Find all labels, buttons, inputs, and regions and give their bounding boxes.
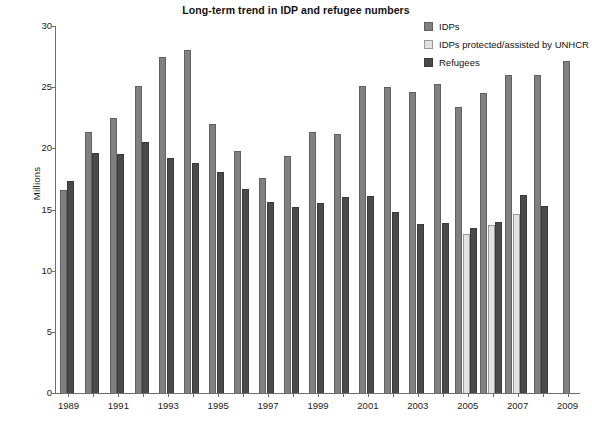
x-tick-mark xyxy=(493,393,494,397)
bar-idp-2001[interactable] xyxy=(359,86,366,393)
y-tick-label: 20 xyxy=(0,142,52,153)
bar-ref-1993[interactable] xyxy=(167,158,174,393)
x-tick-label: 2003 xyxy=(398,400,438,411)
x-tick-label: 1997 xyxy=(248,400,288,411)
chart-container: Long-term trend in IDP and refugee numbe… xyxy=(0,0,592,433)
bar-idp-1992[interactable] xyxy=(135,86,142,393)
bar-group xyxy=(281,26,306,393)
legend-swatch-icon xyxy=(424,40,433,49)
bar-idp-1989[interactable] xyxy=(60,190,67,393)
legend-item-ref[interactable]: Refugees xyxy=(424,54,589,70)
x-tick-mark xyxy=(318,393,319,397)
chart-legend: IDPsIDPs protected/assisted by UNHCRRefu… xyxy=(424,18,589,72)
legend-label: IDPs xyxy=(439,21,460,32)
bar-group xyxy=(330,26,355,393)
y-tick-label: 15 xyxy=(0,204,52,215)
x-tick-mark xyxy=(418,393,419,397)
x-tick-mark xyxy=(268,393,269,397)
bar-group xyxy=(455,26,480,393)
x-tick-mark xyxy=(168,393,169,397)
bar-ref-2001[interactable] xyxy=(367,196,374,393)
bar-ref-1990[interactable] xyxy=(92,153,99,393)
bar-group xyxy=(81,26,106,393)
bar-idp-2000[interactable] xyxy=(334,134,341,393)
bar-ref-1996[interactable] xyxy=(242,189,249,393)
bar-group xyxy=(530,26,555,393)
bar-ref-1997[interactable] xyxy=(267,202,274,393)
y-tick-label: 30 xyxy=(0,20,52,31)
bar-group xyxy=(106,26,131,393)
bar-idp-1997[interactable] xyxy=(259,178,266,393)
bar-idp-2002[interactable] xyxy=(384,87,391,393)
bar-ref-1992[interactable] xyxy=(142,142,149,393)
x-tick-mark xyxy=(243,393,244,397)
bar-ref-2002[interactable] xyxy=(392,212,399,393)
x-tick-mark xyxy=(293,393,294,397)
y-tick-label: 25 xyxy=(0,81,52,92)
bar-group xyxy=(131,26,156,393)
bar-unhcr-2007[interactable] xyxy=(513,214,520,393)
bar-idp-1994[interactable] xyxy=(184,50,191,393)
x-tick-label: 1999 xyxy=(298,400,338,411)
x-tick-mark xyxy=(118,393,119,397)
legend-item-unhcr[interactable]: IDPs protected/assisted by UNHCR xyxy=(424,36,589,52)
bar-idp-1999[interactable] xyxy=(309,132,316,393)
legend-swatch-icon xyxy=(424,58,433,67)
bar-idp-1991[interactable] xyxy=(110,118,117,393)
x-tick-mark xyxy=(518,393,519,397)
bar-ref-1995[interactable] xyxy=(217,172,224,393)
x-tick-label: 2001 xyxy=(348,400,388,411)
x-tick-label: 1991 xyxy=(98,400,138,411)
bar-group xyxy=(56,26,81,393)
bar-ref-2004[interactable] xyxy=(442,223,449,393)
bar-ref-2008[interactable] xyxy=(541,206,548,393)
bar-unhcr-2005[interactable] xyxy=(463,234,470,393)
x-tick-mark xyxy=(393,393,394,397)
bar-ref-2003[interactable] xyxy=(417,224,424,393)
plot-area xyxy=(56,26,580,393)
bar-ref-1999[interactable] xyxy=(317,203,324,393)
bar-group xyxy=(231,26,256,393)
y-tick-label: 5 xyxy=(0,326,52,337)
bar-ref-1998[interactable] xyxy=(292,207,299,393)
bar-idp-1996[interactable] xyxy=(234,151,241,393)
x-tick-mark xyxy=(443,393,444,397)
bar-ref-2006[interactable] xyxy=(495,222,502,393)
bar-idp-2003[interactable] xyxy=(409,92,416,393)
bar-unhcr-2006[interactable] xyxy=(488,225,495,393)
bar-group xyxy=(355,26,380,393)
bar-group xyxy=(405,26,430,393)
bar-ref-2007[interactable] xyxy=(520,195,527,393)
bar-idp-2005[interactable] xyxy=(455,107,462,393)
bar-ref-1994[interactable] xyxy=(192,163,199,393)
x-tick-label: 2005 xyxy=(448,400,488,411)
bar-group xyxy=(380,26,405,393)
x-tick-mark xyxy=(193,393,194,397)
bar-idp-1990[interactable] xyxy=(85,132,92,393)
bar-ref-1991[interactable] xyxy=(117,154,124,393)
x-tick-mark xyxy=(543,393,544,397)
bar-ref-2000[interactable] xyxy=(342,197,349,393)
bar-idp-2004[interactable] xyxy=(434,84,441,394)
x-tick-label: 1995 xyxy=(198,400,238,411)
bar-idp-1993[interactable] xyxy=(159,57,166,393)
bar-idp-2009[interactable] xyxy=(563,61,570,393)
bar-idp-2006[interactable] xyxy=(480,93,487,393)
bar-group xyxy=(555,26,580,393)
bar-ref-2005[interactable] xyxy=(470,228,477,393)
x-tick-mark xyxy=(218,393,219,397)
bar-group xyxy=(505,26,530,393)
legend-item-idp[interactable]: IDPs xyxy=(424,18,589,34)
bar-group xyxy=(181,26,206,393)
bar-idp-1998[interactable] xyxy=(284,156,291,393)
bar-idp-1995[interactable] xyxy=(209,124,216,393)
y-tick-label: 0 xyxy=(0,387,52,398)
legend-label: Refugees xyxy=(439,57,480,68)
bar-idp-2007[interactable] xyxy=(505,75,512,393)
y-tick-label: 10 xyxy=(0,265,52,276)
bar-idp-2008[interactable] xyxy=(534,75,541,393)
x-tick-mark xyxy=(143,393,144,397)
bar-group xyxy=(256,26,281,393)
x-tick-mark xyxy=(468,393,469,397)
bar-ref-1989[interactable] xyxy=(67,181,74,393)
